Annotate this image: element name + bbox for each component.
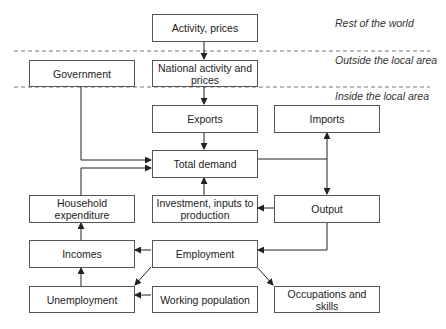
node-imports: Imports	[274, 105, 380, 133]
node-household-expenditure: Household expenditure	[29, 195, 135, 223]
node-output: Output	[274, 195, 380, 223]
local-economy-diagram: Rest of the world Outside the local area…	[0, 0, 446, 329]
node-exports: Exports	[152, 105, 258, 133]
zone-label-inside-local-area: Inside the local area	[335, 90, 429, 102]
node-employment: Employment	[152, 240, 258, 268]
node-working-population: Working population	[152, 286, 258, 313]
node-occupations-skills: Occupations and skills	[274, 286, 380, 313]
zone-label-outside-local-area: Outside the local area	[335, 54, 437, 66]
node-total-demand: Total demand	[152, 150, 258, 178]
node-investment: Investment, inputs to production	[152, 195, 258, 223]
node-activity-prices: Activity, prices	[152, 14, 258, 42]
node-unemployment: Unemployment	[29, 286, 135, 313]
node-national-activity: National activity and prices	[152, 60, 258, 87]
node-government: Government	[29, 60, 135, 87]
node-incomes: Incomes	[29, 240, 135, 268]
zone-label-rest-of-world: Rest of the world	[335, 17, 414, 29]
